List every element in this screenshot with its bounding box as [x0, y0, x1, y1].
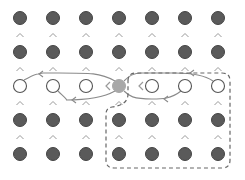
path-arrow-head — [39, 71, 43, 77]
up-chevron-icon — [215, 68, 222, 72]
up-chevron-icon — [182, 34, 189, 38]
up-chevron-icon — [149, 68, 156, 72]
node-filled — [47, 46, 60, 59]
node-empty — [80, 80, 93, 93]
up-chevron-icon — [182, 136, 189, 140]
node-filled — [113, 114, 126, 127]
up-chevron-icon — [116, 136, 123, 140]
up-chevron-icon — [215, 34, 222, 38]
left-chevron-icon — [106, 82, 110, 90]
up-chevron-icon — [182, 102, 189, 106]
node-filled — [179, 148, 192, 161]
up-chevron-icon — [83, 68, 90, 72]
up-chevron-icon — [83, 102, 90, 106]
node-empty — [146, 80, 159, 93]
node-empty — [14, 80, 27, 93]
node-filled — [47, 148, 60, 161]
node-empty — [47, 80, 60, 93]
node-filled — [113, 46, 126, 59]
node-filled — [179, 114, 192, 127]
up-chevron-icon — [182, 68, 189, 72]
path-left-outer-loop — [24, 73, 115, 81]
node-filled — [47, 114, 60, 127]
up-chevron-icon — [116, 68, 123, 72]
path-right-outer-loop — [124, 73, 213, 81]
node-filled — [146, 12, 159, 25]
up-chevron-icon — [83, 34, 90, 38]
up-chevron-icon — [215, 102, 222, 106]
up-chevron-icon — [17, 68, 24, 72]
node-filled — [80, 12, 93, 25]
node-filled — [146, 114, 159, 127]
node-filled — [212, 114, 225, 127]
node-filled — [14, 114, 27, 127]
up-chevron-icon — [50, 136, 57, 140]
node-current — [113, 80, 126, 93]
left-chevron-icon — [139, 82, 143, 90]
node-filled — [113, 148, 126, 161]
node-empty — [212, 80, 225, 93]
node-filled — [80, 114, 93, 127]
node-filled — [212, 148, 225, 161]
up-chevron-icon — [17, 34, 24, 38]
up-chevron-icon — [17, 136, 24, 140]
up-chevron-icon — [83, 136, 90, 140]
up-chevron-icon — [149, 34, 156, 38]
up-chevron-icon — [50, 102, 57, 106]
up-chevron-icon — [149, 102, 156, 106]
node-filled — [14, 46, 27, 59]
up-chevron-icon — [50, 68, 57, 72]
node-filled — [14, 148, 27, 161]
node-filled — [80, 46, 93, 59]
node-filled — [146, 46, 159, 59]
node-empty — [179, 80, 192, 93]
up-chevron-icon — [17, 102, 24, 106]
node-filled — [80, 148, 93, 161]
node-filled — [212, 46, 225, 59]
node-filled — [14, 12, 27, 25]
node-filled — [212, 12, 225, 25]
path-arrow-head — [164, 96, 168, 102]
up-chevron-icon — [116, 102, 123, 106]
node-filled — [47, 12, 60, 25]
diagram-canvas — [0, 0, 245, 180]
node-filled — [146, 148, 159, 161]
node-filled — [179, 46, 192, 59]
up-chevron-icon — [50, 34, 57, 38]
node-filled — [113, 12, 126, 25]
node-filled — [179, 12, 192, 25]
up-chevron-icon — [116, 34, 123, 38]
up-chevron-icon — [215, 136, 222, 140]
lattice-diagram — [0, 0, 245, 180]
up-chevron-icon — [149, 136, 156, 140]
